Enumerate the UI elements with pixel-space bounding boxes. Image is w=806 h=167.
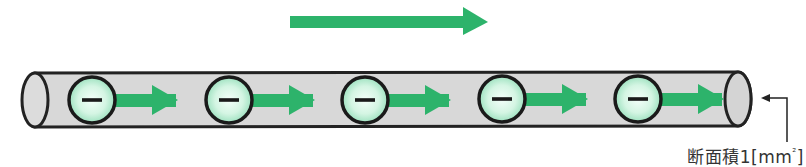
minus-sign-icon — [219, 98, 239, 102]
wire-right-end-cross-section — [725, 72, 751, 126]
pointer-arrowhead-icon — [761, 94, 770, 102]
current-direction-arrow — [290, 7, 488, 35]
minus-sign-icon — [355, 98, 375, 102]
minus-sign-icon — [82, 98, 102, 102]
cross-section-pointer — [761, 94, 787, 142]
minus-sign-icon — [628, 97, 648, 101]
wire-diagram — [0, 0, 806, 167]
cross-section-label: 断面積1[mm²] — [687, 143, 804, 167]
minus-sign-icon — [492, 97, 512, 101]
wire-left-end — [22, 73, 48, 127]
